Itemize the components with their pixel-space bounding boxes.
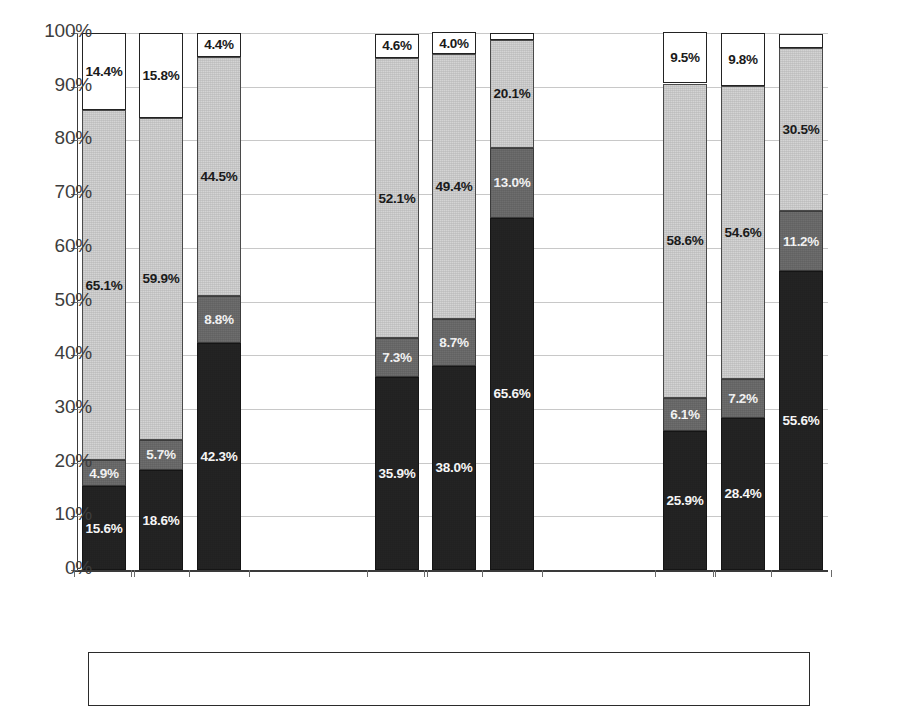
bar-segment-higher: 4.0%: [432, 32, 476, 53]
bar-all-45-64: 28.4%7.2%54.6%9.8%: [721, 33, 765, 570]
bar-segment-basic: 58.6%: [663, 84, 707, 399]
bar-segment-value-label: 52.1%: [379, 190, 416, 205]
x-tick-mark: [482, 570, 483, 577]
bar-segment-nontax: 25.9%: [663, 431, 707, 570]
bar-segment-nontax: 35.9%: [375, 377, 419, 570]
bar-segment-value-label: 8.7%: [439, 335, 469, 350]
legend: [88, 652, 810, 706]
x-tick-mark: [427, 570, 428, 577]
bar-segment-basic: 44.5%: [197, 57, 241, 296]
bar-segment-value-label: 55.6%: [783, 413, 820, 428]
bar-segment-higher: 4.4%: [197, 33, 241, 57]
bar-segment-basic: 59.9%: [139, 118, 183, 440]
bar-segment-lower: 6.1%: [663, 398, 707, 431]
bar-segment-lower: 13.0%: [490, 148, 534, 218]
bar-segment-value-label: 7.2%: [728, 390, 758, 405]
y-axis-tick-label: 100%: [44, 20, 92, 42]
bar-men-65+: 42.3%8.8%44.5%4.4%: [197, 33, 241, 570]
y-axis-tick-label: 70%: [55, 181, 92, 203]
x-tick-mark: [367, 570, 368, 577]
bar-segment-lower: 7.3%: [375, 338, 419, 377]
bar-segment-basic: 49.4%: [432, 54, 476, 319]
x-tick-mark: [542, 570, 543, 577]
x-tick-mark: [189, 570, 190, 577]
bar-men-45-64: 18.6%5.7%59.9%15.8%: [139, 33, 183, 570]
bar-segment-nontax: 55.6%: [779, 271, 823, 570]
x-tick-mark: [713, 570, 714, 577]
x-tick-mark: [134, 570, 135, 577]
bar-segment-value-label: 4.0%: [439, 35, 469, 50]
y-axis-tick-label: 0%: [65, 557, 92, 579]
bar-segment-value-label: 59.9%: [143, 271, 180, 286]
x-tick-mark: [655, 570, 656, 577]
bar-segment-higher: 9.8%: [721, 33, 765, 86]
y-axis-tick-label: 10%: [55, 503, 92, 525]
x-tick-mark: [771, 570, 772, 577]
bar-segment-basic: 52.1%: [375, 58, 419, 338]
y-axis-tick-label: 30%: [55, 396, 92, 418]
x-tick-mark: [424, 570, 425, 577]
bar-segment-value-label: 28.4%: [725, 486, 762, 501]
x-tick-mark: [715, 570, 716, 577]
stacked-bar-chart: 15.6%4.9%65.1%14.4%18.6%5.7%59.9%15.8%42…: [0, 0, 898, 718]
y-axis-tick-label: 40%: [55, 342, 92, 364]
bar-segment-lower: 7.2%: [721, 379, 765, 418]
bar-all-25-44: 25.9%6.1%58.6%9.5%: [663, 33, 707, 570]
y-axis-tick-label: 20%: [55, 450, 92, 472]
bar-segment-value-label: 38.0%: [436, 460, 473, 475]
bar-segment-value-label: 6.1%: [670, 407, 700, 422]
bar-segment-value-label: 25.9%: [667, 492, 704, 507]
bar-segment-value-label: 65.6%: [494, 386, 531, 401]
bar-segment-value-label: 11.2%: [783, 233, 819, 248]
bar-segment-value-label: 18.6%: [143, 512, 180, 527]
bar-segment-lower: 5.7%: [139, 440, 183, 471]
bar-segment-value-label: 20.1%: [494, 86, 531, 101]
bar-segment-value-label: 58.6%: [667, 233, 704, 248]
x-tick-mark: [131, 570, 132, 577]
bar-segment-value-label: 7.3%: [382, 350, 412, 365]
bar-segment-higher: 4.6%: [375, 34, 419, 59]
bar-segment-higher: 15.8%: [139, 33, 183, 118]
bar-segment-higher: 1.3%: [490, 33, 534, 40]
y-axis-tick-label: 60%: [55, 235, 92, 257]
bar-segment-value-label: 13.0%: [494, 175, 531, 190]
x-tick-mark: [831, 570, 832, 577]
bar-segment-basic: 30.5%: [779, 48, 823, 212]
bar-women-65+: 65.6%13.0%20.1%1.3%: [490, 33, 534, 570]
bar-segment-lower: 11.2%: [779, 211, 823, 271]
x-tick-mark: [249, 570, 250, 577]
bar-segment-nontax: 38.0%: [432, 366, 476, 570]
bar-segment-value-label: 4.6%: [382, 38, 412, 53]
bar-women-45-64: 38.0%8.7%49.4%4.0%: [432, 33, 476, 570]
bar-segment-value-label: 15.8%: [143, 67, 180, 82]
bar-segment-value-label: 44.5%: [201, 168, 238, 183]
y-axis-tick-label: 90%: [55, 74, 92, 96]
bar-segment-nontax: 28.4%: [721, 418, 765, 571]
bar-segment-lower: 8.7%: [432, 319, 476, 366]
bar-segment-value-label: 5.7%: [146, 447, 176, 462]
bar-segment-value-label: 35.9%: [379, 466, 416, 481]
bar-all-65+: 55.6%11.2%30.5%2.6%: [779, 33, 823, 570]
bar-segment-nontax: 18.6%: [139, 470, 183, 570]
bar-segment-value-label: 8.8%: [204, 311, 234, 326]
bar-segment-value-label: 9.5%: [670, 50, 700, 65]
bar-segment-value-label: 49.4%: [436, 179, 473, 194]
bar-segment-basic: 54.6%: [721, 86, 765, 379]
plot-area: 15.6%4.9%65.1%14.4%18.6%5.7%59.9%15.8%42…: [78, 33, 828, 570]
bar-segment-value-label: 54.6%: [725, 224, 762, 239]
bar-segment-value-label: 30.5%: [783, 121, 820, 136]
bar-segment-nontax: 42.3%: [197, 343, 241, 570]
y-axis-tick-label: 50%: [55, 289, 92, 311]
y-axis-tick-label: 80%: [55, 127, 92, 149]
bar-segment-value-label: 9.8%: [728, 51, 758, 66]
bar-segment-value-label: 4.9%: [89, 465, 119, 480]
bar-segment-value-label: 42.3%: [201, 448, 238, 463]
bar-segment-higher: 14.4%: [82, 33, 126, 110]
bar-segment-nontax: 65.6%: [490, 218, 534, 570]
bar-segment-basic: 20.1%: [490, 40, 534, 148]
bar-segment-value-label: 4.4%: [204, 37, 234, 52]
bar-segment-lower: 8.8%: [197, 296, 241, 343]
bar-segment-higher: 9.5%: [663, 32, 707, 83]
bar-women-25-44: 35.9%7.3%52.1%4.6%: [375, 33, 419, 570]
bar-segment-higher: 2.6%: [779, 34, 823, 48]
